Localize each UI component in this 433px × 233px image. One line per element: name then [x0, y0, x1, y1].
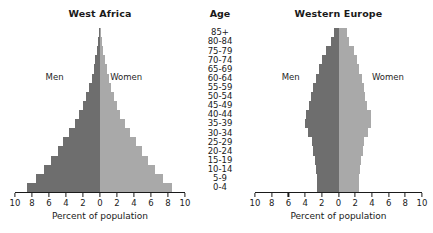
axis-tick: [321, 193, 322, 197]
axis-tick-label: 10: [250, 198, 261, 208]
pyramid-row: [15, 156, 185, 165]
women-half: [100, 55, 185, 64]
men-half: [15, 137, 100, 146]
population-pyramid-figure: West Africa Men Women 1086420246810 Perc…: [0, 0, 433, 233]
women-half: [100, 156, 185, 165]
men-half: [15, 128, 100, 137]
bar-men-5-9: [36, 174, 100, 183]
age-label-80-84: 80-84: [196, 37, 244, 46]
age-label-35-39: 35-39: [196, 119, 244, 128]
men-half: [15, 83, 100, 92]
pyramid-row: [15, 46, 185, 55]
bar-men-35-39: [75, 119, 101, 128]
bar-men-50-54: [86, 92, 100, 101]
bar-women-65-69: [100, 64, 107, 73]
axis-tick: [338, 193, 339, 197]
pyramid-row: [15, 28, 185, 37]
panel-western-europe: Western Europe Men Women 1086420246810 P…: [244, 0, 433, 233]
axis-tick-label: 2: [80, 198, 85, 208]
bar-women-85+: [339, 28, 347, 37]
bar-men-60-64: [316, 74, 339, 83]
bar-men-65-69: [319, 64, 339, 73]
pyramid-row: [255, 128, 422, 137]
bar-women-70-74: [339, 55, 357, 64]
pyramid-row: [15, 146, 185, 155]
axis-tick: [304, 193, 305, 197]
axis-tick: [184, 193, 185, 197]
axis-tick-label: 10: [10, 198, 21, 208]
bar-men-10-14: [44, 165, 100, 174]
women-half: [339, 55, 423, 64]
axis-tick-label: 6: [286, 198, 291, 208]
axis-tick-label: 4: [63, 198, 68, 208]
axis-tick: [421, 193, 422, 197]
men-half: [15, 28, 100, 37]
bar-women-60-64: [100, 74, 109, 83]
women-half: [339, 110, 423, 119]
bar-men-70-74: [322, 55, 338, 64]
axis-tick-label: 0: [97, 198, 102, 208]
men-half: [15, 165, 100, 174]
bar-men-50-54: [311, 92, 338, 101]
pyramid-row: [15, 165, 185, 174]
bar-women-55-59: [100, 83, 111, 92]
bar-women-35-39: [339, 119, 372, 128]
axis-tick: [254, 193, 255, 197]
bar-men-20-24: [58, 146, 101, 155]
bar-women-15-19: [339, 156, 362, 165]
men-half: [255, 165, 339, 174]
women-half: [100, 83, 185, 92]
women-half: [339, 101, 423, 110]
women-half: [339, 156, 423, 165]
plot-area-west-africa: Men Women: [15, 28, 185, 192]
bar-women-5-9: [100, 174, 163, 183]
axis-tick-label: 2: [319, 198, 324, 208]
men-half: [255, 83, 339, 92]
bar-women-5-9: [339, 174, 360, 183]
women-half: [339, 83, 423, 92]
bar-women-80-84: [100, 37, 102, 46]
bar-men-55-59: [313, 83, 338, 92]
bar-women-85+: [100, 28, 101, 37]
x-axis-western-europe: 1086420246810: [255, 192, 422, 193]
men-half: [15, 55, 100, 64]
axis-tick-label: 8: [165, 198, 170, 208]
women-half: [339, 137, 423, 146]
bar-men-40-44: [306, 110, 339, 119]
women-half: [339, 183, 423, 192]
bar-women-35-39: [100, 119, 125, 128]
women-half: [339, 174, 423, 183]
axis-tick-label: 10: [180, 198, 191, 208]
bar-women-45-49: [100, 101, 117, 110]
men-label-west-africa: Men: [46, 72, 64, 82]
women-half: [100, 165, 185, 174]
women-label-west-africa: Women: [110, 72, 142, 82]
men-half: [255, 55, 339, 64]
axis-tick: [14, 193, 15, 197]
bar-women-75-79: [339, 46, 354, 55]
men-half: [15, 110, 100, 119]
pyramid-row: [255, 101, 422, 110]
women-half: [100, 28, 185, 37]
pyramid-row: [15, 55, 185, 64]
x-axis-west-africa: 1086420246810: [15, 192, 185, 193]
axis-tick-label: 4: [131, 198, 136, 208]
pyramid-row: [15, 83, 185, 92]
men-half: [15, 183, 100, 192]
women-half: [339, 28, 423, 37]
panel-age-labels: Age 85+80-8475-7970-7465-6960-6455-5950-…: [196, 0, 244, 233]
bar-men-60-64: [92, 74, 101, 83]
panel-title-west-africa: West Africa: [4, 8, 196, 19]
bar-men-0-4: [27, 183, 100, 192]
bar-men-75-79: [326, 46, 339, 55]
bar-men-80-84: [331, 37, 338, 46]
women-half: [100, 119, 185, 128]
axis-tick: [116, 193, 117, 197]
women-half: [339, 92, 423, 101]
panel-west-africa: West Africa Men Women 1086420246810 Perc…: [4, 0, 196, 233]
men-half: [255, 137, 339, 146]
women-half: [100, 110, 185, 119]
men-half: [255, 119, 339, 128]
axis-tick: [48, 193, 49, 197]
men-half: [15, 146, 100, 155]
